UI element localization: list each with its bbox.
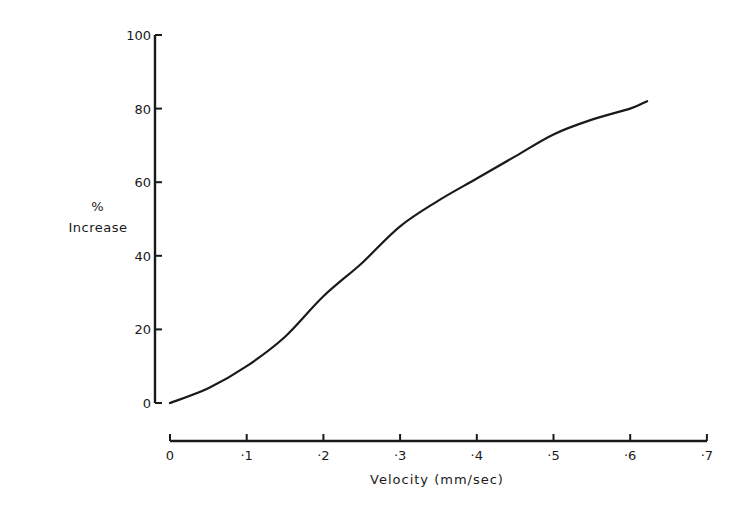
- line-chart: 020406080100 0·1·2·3·4·5·6·7 % Increase …: [0, 0, 748, 513]
- y-axis-title: Increase: [68, 220, 127, 235]
- x-tick-label: ·1: [240, 448, 252, 463]
- y-axis: 020406080100: [126, 28, 162, 411]
- x-tick-label: ·6: [624, 448, 636, 463]
- x-axis-title: Velocity (mm/sec): [370, 472, 504, 487]
- y-tick-label: 20: [134, 322, 151, 337]
- y-tick-label: 0: [143, 396, 151, 411]
- y-tick-label: 100: [126, 28, 151, 43]
- y-axis-title-symbol: %: [91, 199, 104, 214]
- x-tick-label: ·7: [701, 448, 713, 463]
- x-tick-label: 0: [166, 448, 174, 463]
- x-tick-label: ·4: [471, 448, 483, 463]
- chart-canvas: 020406080100 0·1·2·3·4·5·6·7 % Increase …: [0, 0, 748, 513]
- x-tick-label: ·5: [547, 448, 559, 463]
- x-tick-label: ·3: [394, 448, 406, 463]
- y-tick-label: 80: [134, 102, 151, 117]
- x-tick-label: ·2: [317, 448, 329, 463]
- x-axis: 0·1·2·3·4·5·6·7: [166, 434, 713, 463]
- y-tick-label: 40: [134, 249, 151, 264]
- y-tick-label: 60: [134, 175, 151, 190]
- data-line-percent-increase: [170, 101, 647, 403]
